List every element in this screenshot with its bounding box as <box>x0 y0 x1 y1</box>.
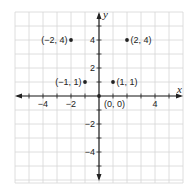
y-tick-label: 4 <box>90 35 95 45</box>
point-label: (0, 0) <box>104 99 125 109</box>
x-tick-label: −2 <box>66 99 76 109</box>
data-point <box>69 38 73 42</box>
coordinate-plane: −4−2442−2−4 (−2, 4)(2, 4)(−1, 1)(1, 1)(0… <box>0 0 185 186</box>
y-tick-label: −4 <box>85 147 95 157</box>
x-axis-label: x <box>176 83 182 95</box>
y-tick-label: 2 <box>90 63 95 73</box>
point-label: (2, 4) <box>131 35 152 45</box>
y-axis-up-arrow-icon <box>97 12 102 19</box>
y-tick-label: −2 <box>85 119 95 129</box>
data-point <box>125 38 129 42</box>
y-axis-label: y <box>102 8 108 20</box>
point-label: (−2, 4) <box>41 35 67 45</box>
x-tick-label: 4 <box>152 99 157 109</box>
data-point <box>97 94 101 98</box>
data-points: (−2, 4)(2, 4)(−1, 1)(1, 1)(0, 0) <box>41 35 151 109</box>
point-label: (−1, 1) <box>55 77 81 87</box>
point-label: (1, 1) <box>117 77 138 87</box>
x-tick-label: −4 <box>38 99 48 109</box>
data-point <box>111 80 115 84</box>
x-axis-left-arrow-icon <box>15 94 22 99</box>
data-point <box>83 80 87 84</box>
